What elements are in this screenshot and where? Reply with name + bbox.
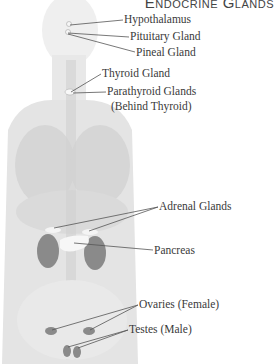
label-adrenal-glands: Adrenal Glands: [159, 200, 232, 213]
left-kidney: [37, 234, 59, 268]
left-ovary: [45, 327, 57, 335]
right-testis: [73, 346, 81, 358]
hypothalamus-gland: [67, 22, 72, 27]
diagram-title: Endocrine Glands: [145, 0, 274, 11]
label-parathyroid-glands: Parathyroid Glands: [107, 85, 196, 98]
endocrine-diagram: Endocrine Glands Hypothalamus Pituitary …: [0, 0, 280, 364]
label-thyroid-gland: Thyroid Gland: [102, 67, 170, 80]
thyroid-gland: [65, 89, 75, 95]
label-ovaries: Ovaries (Female): [139, 298, 219, 311]
label-pineal-gland: Pineal Gland: [136, 46, 196, 59]
label-pancreas: Pancreas: [154, 244, 195, 257]
label-parathyroid-note: (Behind Thyroid): [111, 100, 192, 113]
left-adrenal-gland: [45, 227, 61, 233]
pituitary-gland: [66, 30, 71, 35]
label-hypothalamus: Hypothalamus: [124, 13, 191, 26]
label-pituitary-gland: Pituitary Gland: [130, 30, 201, 43]
label-testes: Testes (Male): [129, 323, 192, 336]
right-adrenal-gland: [82, 229, 98, 235]
